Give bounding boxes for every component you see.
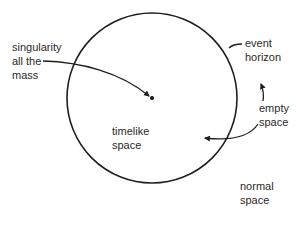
event-horizon-label-line-2: horizon <box>245 50 281 64</box>
empty-space-label-line-1: empty <box>259 101 289 115</box>
singularity-label-line-2: all the <box>12 54 62 68</box>
singularity-label-line-3: mass <box>12 68 62 82</box>
singularity-label: singularity all the mass <box>12 40 62 82</box>
timelike-space-label-line-1: timelike <box>112 124 149 138</box>
timelike-space-label-line-2: space <box>112 138 149 152</box>
empty-space-label-line-2: space <box>259 115 289 129</box>
singularity-point <box>150 96 154 100</box>
empty-space-outward-arrow <box>261 84 263 101</box>
normal-space-label-line-2: space <box>240 193 274 207</box>
event-horizon-label: event horizon <box>245 36 281 64</box>
timelike-space-label: timelike space <box>112 124 149 152</box>
normal-space-label-line-1: normal <box>240 179 274 193</box>
event-horizon-label-line-1: event <box>245 36 281 50</box>
normal-space-label: normal space <box>240 179 274 207</box>
event-horizon-leader <box>229 44 242 48</box>
empty-space-label: empty space <box>259 101 289 129</box>
singularity-label-line-1: singularity <box>12 40 62 54</box>
